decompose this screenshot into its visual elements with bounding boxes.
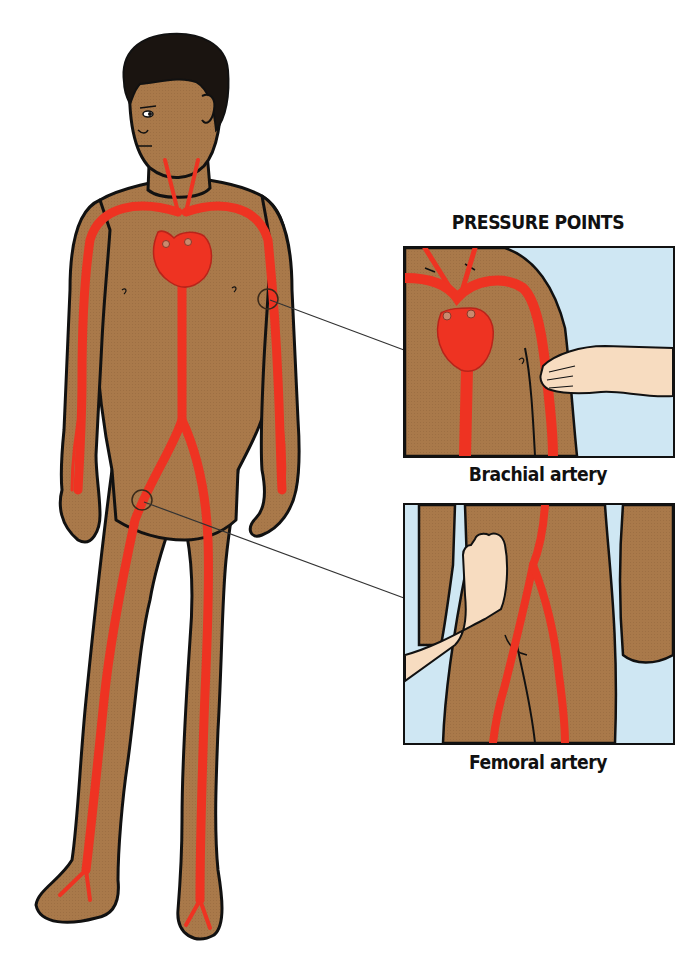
head — [123, 34, 228, 178]
femoral-artery-panel — [403, 503, 675, 745]
femoral-panel-illustration — [405, 505, 673, 743]
cropped-caption-fragment — [0, 962, 688, 970]
brachial-panel-illustration — [405, 248, 673, 456]
femoral-artery-caption: Femoral artery — [422, 750, 654, 774]
diagram-title: PRESSURE POINTS — [423, 210, 653, 234]
brachial-artery-panel — [403, 246, 675, 458]
brachial-artery-caption: Brachial artery — [422, 462, 654, 486]
pressure-points-diagram: PRESSURE POINTS Brachi — [0, 0, 688, 970]
